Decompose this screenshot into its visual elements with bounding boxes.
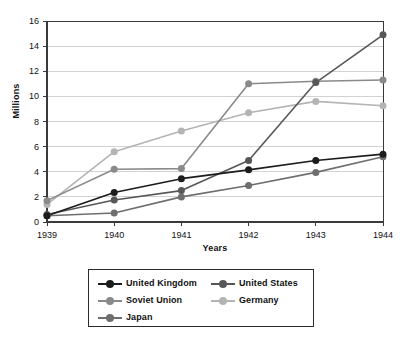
legend-marker-icon bbox=[211, 278, 235, 289]
line-chart-figure: Millions Years 0246810121416 19391940194… bbox=[0, 0, 404, 344]
legend-marker-icon bbox=[98, 278, 122, 289]
legend-entry[interactable]: Soviet Union bbox=[98, 292, 197, 308]
gridlines bbox=[47, 21, 383, 197]
legend-label: Germany bbox=[239, 295, 279, 305]
legend-marker-icon bbox=[98, 295, 122, 306]
legend-label: Soviet Union bbox=[126, 295, 182, 305]
chart-plot-region: Millions Years 0246810121416 19391940194… bbox=[0, 0, 404, 262]
legend-marker-icon bbox=[211, 295, 235, 306]
legend-column-left: United KingdomSoviet UnionJapan bbox=[98, 275, 197, 326]
legend-entry[interactable]: Germany bbox=[211, 292, 298, 308]
chart-legend: United KingdomSoviet UnionJapan United S… bbox=[88, 269, 314, 327]
legend-entry[interactable]: United States bbox=[211, 275, 298, 291]
legend-entry[interactable]: Japan bbox=[98, 309, 197, 325]
series-lines bbox=[47, 35, 383, 216]
legend-label: United States bbox=[239, 278, 298, 288]
chart-canvas bbox=[0, 0, 404, 262]
legend-entry[interactable]: United Kingdom bbox=[98, 275, 197, 291]
legend-column-right: United StatesGermany bbox=[211, 275, 298, 309]
legend-label: United Kingdom bbox=[126, 278, 197, 288]
legend-label: Japan bbox=[126, 312, 153, 322]
legend-marker-icon bbox=[98, 312, 122, 323]
